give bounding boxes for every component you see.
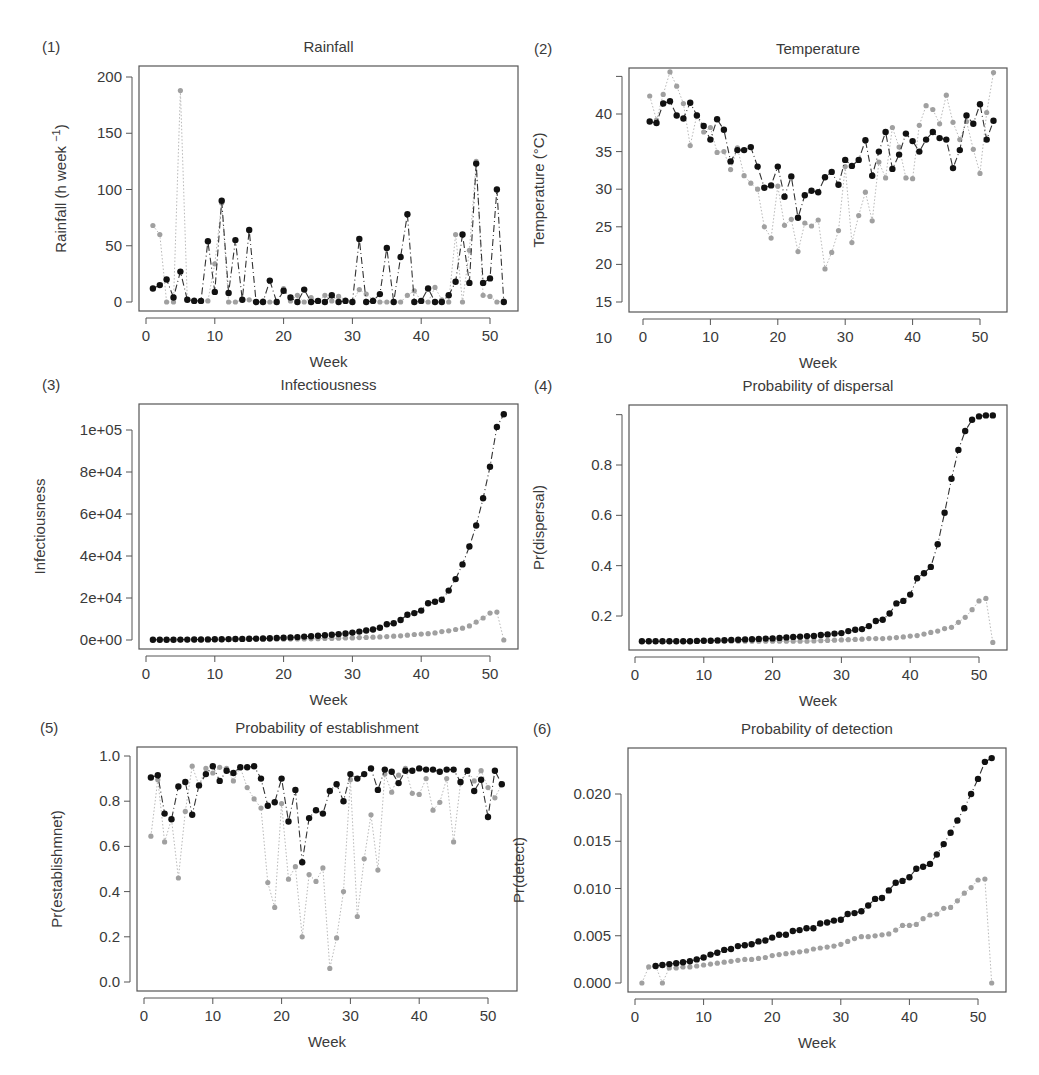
x-axis-label: Week [799,354,838,371]
series-line-light [153,91,504,303]
x-tick-label: 30 [837,328,854,345]
data-point-dark [397,617,403,623]
data-point-dark [246,227,252,233]
data-point-dark [384,245,390,251]
data-point-dark [285,818,291,824]
data-point-light [976,598,981,603]
data-point-dark [873,618,879,624]
data-point-light [430,808,435,813]
data-point-dark [473,522,479,528]
data-point-dark [439,299,445,305]
data-point-dark [425,285,431,291]
data-point-dark [416,765,422,771]
data-point-light [880,636,885,641]
data-point-light [811,946,816,951]
data-point-dark [882,129,888,135]
series-line-light [650,72,994,269]
data-point-light [364,635,369,640]
series-line-dark [656,758,992,966]
data-point-dark [707,951,713,957]
x-tick-label: 30 [344,665,361,682]
data-point-light [748,181,753,186]
data-point-dark [356,628,362,634]
data-point-dark [237,764,243,770]
data-point-light [265,880,270,885]
data-point-light [419,632,424,637]
data-point-dark [831,917,837,923]
data-point-dark [292,787,298,793]
data-point-light [934,911,939,916]
data-point-dark [308,633,314,639]
data-point-light [770,953,775,958]
chart-panel-2: (2)Temperature01020304050Week15202530354… [530,40,1007,371]
data-point-light [453,627,458,632]
data-point-light [494,299,499,304]
data-point-light [391,634,396,639]
data-point-dark [356,236,362,242]
data-point-dark [734,147,740,153]
y-tick-label: 0.010 [573,880,611,897]
data-point-dark [320,810,326,816]
data-point-light [863,190,868,195]
data-point-light [908,634,913,639]
data-point-dark [811,633,817,639]
data-point-dark [916,148,922,154]
data-point-light [467,623,472,628]
data-point-light [921,632,926,637]
data-point-dark [391,299,397,305]
x-tick-label: 10 [702,328,719,345]
data-point-light [962,891,967,896]
plot-area [639,412,996,645]
x-tick-label: 0 [142,327,150,344]
data-point-light [715,150,720,155]
y-tick-label: 2e+04 [80,589,122,606]
data-point-light [982,876,987,881]
data-point-dark [842,157,848,163]
x-tick-label: 40 [413,665,430,682]
data-point-dark [984,136,990,142]
data-point-dark [223,768,229,774]
data-point-light [164,299,169,304]
data-point-light [883,175,888,180]
data-point-light [876,160,881,165]
data-point-light [313,879,318,884]
data-point-dark [701,123,707,129]
data-point-dark [666,961,672,967]
data-point-light [446,628,451,633]
data-point-light [300,934,305,939]
data-point-light [660,980,665,985]
data-point-light [286,877,291,882]
data-point-dark [409,768,415,774]
plot-frame [628,748,1006,992]
data-point-dark [714,637,720,643]
data-point-dark [430,766,436,772]
data-point-light [226,299,231,304]
data-point-light [849,240,854,245]
data-point-dark [294,634,300,640]
data-point-dark [205,238,211,244]
data-point-light [969,885,974,890]
data-point-light [930,107,935,112]
data-point-light [942,626,947,631]
data-point-light [681,101,686,106]
series-line-dark [642,415,993,641]
data-point-light [873,933,878,938]
data-point-dark [184,297,190,303]
y-axis-label: Infectiousness [31,479,48,575]
data-point-dark [368,765,374,771]
x-tick-label: 0 [631,666,639,683]
data-point-light [474,620,479,625]
data-point-dark [205,636,211,642]
data-point-dark [957,147,963,153]
data-point-dark [148,774,154,780]
data-point-dark [802,192,808,198]
data-point-light [451,839,456,844]
data-point-light [357,287,362,292]
data-point-light [836,228,841,233]
data-point-dark [239,636,245,642]
data-point-dark [411,299,417,305]
data-point-light [701,129,706,134]
data-point-dark [327,788,333,794]
data-point-light [295,293,300,298]
data-point-dark [212,636,218,642]
